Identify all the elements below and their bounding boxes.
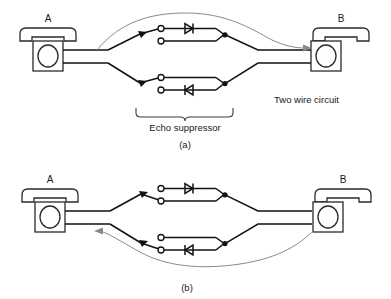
- panel-b-caption: (b): [181, 282, 193, 293]
- panel-a-echo-suppressor-brace: [136, 108, 233, 121]
- panel-b-terminal-label-B: B: [340, 174, 347, 185]
- panel-b: A: [22, 174, 371, 293]
- panel-b-telephone-B: [313, 189, 371, 232]
- panel-a-two-wire-circuit-label: Two wire circuit: [274, 94, 339, 105]
- panel-a-terminal-label-A: A: [45, 13, 52, 24]
- panel-a-echo-suppressor-label: Echo suppressor: [149, 122, 220, 133]
- panel-a: A: [20, 13, 369, 150]
- panel-b-terminal-label-A: A: [47, 174, 54, 185]
- echo-suppressor-diagram: A: [0, 0, 391, 299]
- panel-a-terminal-label-B: B: [338, 13, 345, 24]
- panel-a-telephone-B: [311, 28, 369, 71]
- panel-b-flow-arrow: [94, 228, 314, 267]
- panel-a-caption: (a): [179, 139, 191, 150]
- panel-a-flow-arrow: [97, 13, 312, 52]
